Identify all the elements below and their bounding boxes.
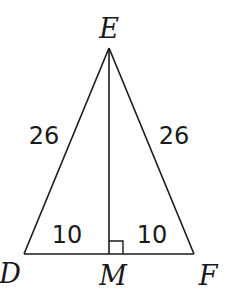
triangle-diagram: E D M F 26 26 10 10 — [0, 0, 236, 305]
length-label-de: 26 — [29, 122, 60, 150]
length-label-mf: 10 — [137, 221, 168, 249]
vertex-label-f: F — [198, 260, 219, 291]
vertex-label-d: D — [0, 258, 21, 289]
vertex-label-m: M — [98, 260, 128, 291]
length-label-ef: 26 — [159, 122, 190, 150]
length-label-dm: 10 — [52, 221, 83, 249]
vertex-label-e: E — [98, 13, 119, 44]
right-angle-marker-icon — [109, 241, 123, 254]
